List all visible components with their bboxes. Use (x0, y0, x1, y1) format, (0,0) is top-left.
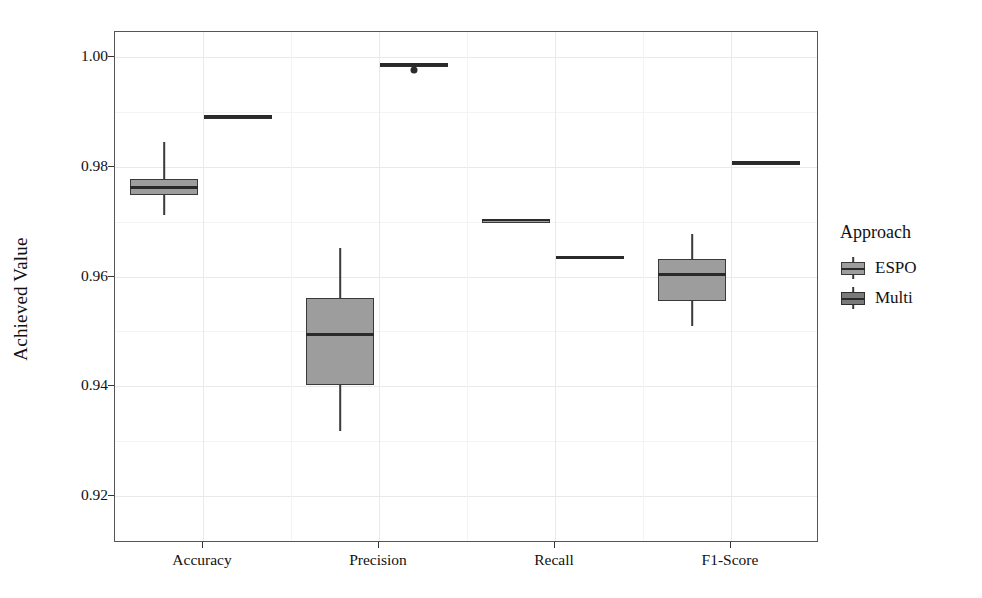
y-axis-tick-mark (108, 385, 114, 386)
x-axis-tick-label: F1-Score (702, 551, 759, 569)
median-line (732, 161, 800, 164)
gridline-vertical-minor (467, 32, 468, 541)
whisker-upper (339, 248, 341, 297)
median-line (482, 219, 550, 222)
legend-item-label: ESPO (875, 258, 917, 278)
median-line (380, 63, 448, 66)
legend-key-boxplot-icon (840, 285, 866, 311)
boxplot-box (380, 32, 448, 543)
boxplot-box (482, 32, 550, 543)
legend-item-multi[interactable]: Multi (840, 283, 980, 313)
boxplot-box (204, 32, 272, 543)
box-rect (658, 259, 726, 301)
boxplot-box (658, 32, 726, 543)
y-axis-tick-label: 0.98 (60, 157, 108, 175)
boxplot-figure: Achieved Value 0.920.940.960.981.00 Appr… (0, 0, 982, 598)
median-line (204, 115, 272, 118)
median-line (658, 273, 726, 276)
median-line (556, 256, 624, 259)
y-axis-title: Achieved Value (0, 0, 42, 598)
whisker-lower (163, 195, 165, 215)
median-line (306, 333, 374, 336)
box-rect (306, 298, 374, 385)
x-axis-tick-mark (730, 542, 731, 548)
outlier-point (411, 67, 418, 74)
legend-item-espo[interactable]: ESPO (840, 253, 980, 283)
x-axis-tick-mark (202, 542, 203, 548)
gridline-vertical-minor (643, 32, 644, 541)
whisker-lower (691, 301, 693, 326)
plot-panel (114, 31, 818, 542)
boxplot-box (130, 32, 198, 543)
gridline-vertical-minor (291, 32, 292, 541)
y-axis-tick-label: 0.92 (60, 486, 108, 504)
boxplot-box (556, 32, 624, 543)
legend-item-label: Multi (875, 288, 913, 308)
y-axis-tick-mark (108, 56, 114, 57)
boxplot-box (732, 32, 800, 543)
x-axis-tick-mark (378, 542, 379, 548)
x-axis-tick-label: Accuracy (172, 551, 231, 569)
x-axis-tick-label: Precision (349, 551, 407, 569)
x-axis-tick-label: Recall (534, 551, 574, 569)
y-axis-tick-label: 1.00 (60, 47, 108, 65)
legend-title: Approach (840, 222, 980, 243)
whisker-upper (691, 234, 693, 259)
whisker-upper (163, 142, 165, 179)
legend: Approach ESPOMulti (840, 222, 980, 313)
whisker-lower (339, 385, 341, 432)
y-axis-tick-label: 0.96 (60, 267, 108, 285)
legend-items: ESPOMulti (840, 253, 980, 313)
y-axis-tick-mark (108, 495, 114, 496)
legend-key-boxplot-icon (840, 255, 866, 281)
boxplot-box (306, 32, 374, 543)
y-axis-tick-label: 0.94 (60, 376, 108, 394)
y-axis-tick-labels: 0.920.940.960.981.00 (56, 0, 108, 598)
median-line (130, 186, 198, 189)
x-axis-tick-mark (554, 542, 555, 548)
y-axis-tick-mark (108, 166, 114, 167)
y-axis-tick-mark (108, 276, 114, 277)
